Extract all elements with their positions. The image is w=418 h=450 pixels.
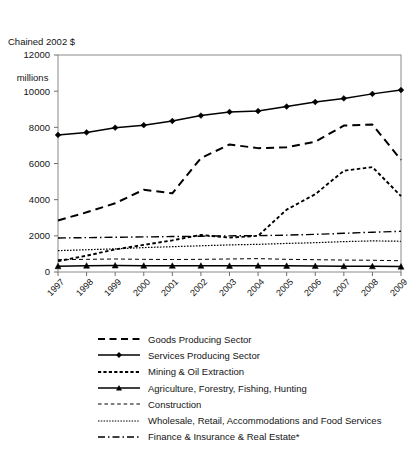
- legend-key-icon: [96, 430, 142, 444]
- legend-item-label: Services Producing Sector: [142, 350, 260, 361]
- legend-item[interactable]: Goods Producing Sector: [96, 331, 418, 347]
- legend-item-label: Finance & Insurance & Real Estate*: [142, 431, 300, 442]
- legend-key-icon: [96, 348, 142, 362]
- data-point-marker: [198, 113, 204, 119]
- legend-item-label: Agriculture, Forestry, Fishing, Hunting: [142, 383, 307, 394]
- line-chart: 020004000600080001000012000: [0, 40, 418, 290]
- legend-item[interactable]: Mining & Oil Extraction: [96, 364, 418, 380]
- y-axis-tick-label: 0: [45, 266, 50, 277]
- chart-series: [55, 87, 404, 138]
- data-point-marker: [112, 125, 118, 131]
- series-line: [58, 241, 401, 251]
- data-point-marker: [398, 87, 404, 93]
- y-axis-tick-label: 8000: [29, 122, 50, 133]
- legend-item-label: Mining & Oil Extraction: [142, 366, 244, 377]
- y-axis-tick-label: 6000: [29, 158, 50, 169]
- series-line: [58, 259, 401, 261]
- chart-page: Chained 2002 $ millions 0200040006000800…: [0, 0, 418, 450]
- legend-item-label: Goods Producing Sector: [142, 334, 252, 345]
- legend-item[interactable]: Services Producing Sector: [96, 347, 418, 363]
- legend-item-label: Wholesale, Retail, Accommodations and Fo…: [142, 415, 381, 426]
- legend-key-icon: [96, 381, 142, 395]
- data-point-marker: [370, 91, 376, 97]
- chart-series: [58, 241, 401, 251]
- y-axis: 020004000600080001000012000: [24, 49, 58, 277]
- y-axis-tick-label: 12000: [24, 49, 50, 60]
- data-point-marker: [55, 132, 61, 138]
- chart-series: [58, 167, 401, 261]
- legend-item[interactable]: Agriculture, Forestry, Fishing, Hunting: [96, 380, 418, 396]
- x-axis: [58, 272, 401, 276]
- data-point-marker: [284, 104, 290, 110]
- legend-key-icon: [96, 397, 142, 411]
- y-axis-tick-label: 2000: [29, 230, 50, 241]
- data-point-marker: [169, 118, 175, 124]
- chart-legend: Goods Producing SectorServices Producing…: [96, 331, 418, 445]
- chart-canvas: 020004000600080001000012000: [0, 40, 418, 290]
- legend-item[interactable]: Finance & Insurance & Real Estate*: [96, 429, 418, 445]
- series-line: [58, 167, 401, 261]
- chart-series: [58, 125, 401, 221]
- data-point-marker: [341, 96, 347, 102]
- chart-series: [58, 259, 401, 261]
- data-point-marker: [227, 109, 233, 115]
- y-axis-tick-label: 4000: [29, 194, 50, 205]
- series-line: [58, 125, 401, 221]
- chart-series: [55, 262, 404, 269]
- data-point-marker: [141, 122, 147, 128]
- x-axis-tick-labels: 1997199819992000200120022003200420052006…: [0, 287, 418, 332]
- legend-key-icon: [96, 365, 142, 379]
- legend-item[interactable]: Wholesale, Retail, Accommodations and Fo…: [96, 412, 418, 428]
- y-axis-tick-label: 10000: [24, 86, 50, 97]
- data-point-marker: [84, 129, 90, 135]
- legend-item-label: Construction: [142, 399, 201, 410]
- legend-item[interactable]: Construction: [96, 396, 418, 412]
- data-point-marker: [255, 108, 261, 114]
- plot-frame: [58, 55, 401, 272]
- data-point-marker: [312, 99, 318, 105]
- legend-key-icon: [96, 414, 142, 428]
- legend-key-icon: [96, 332, 142, 346]
